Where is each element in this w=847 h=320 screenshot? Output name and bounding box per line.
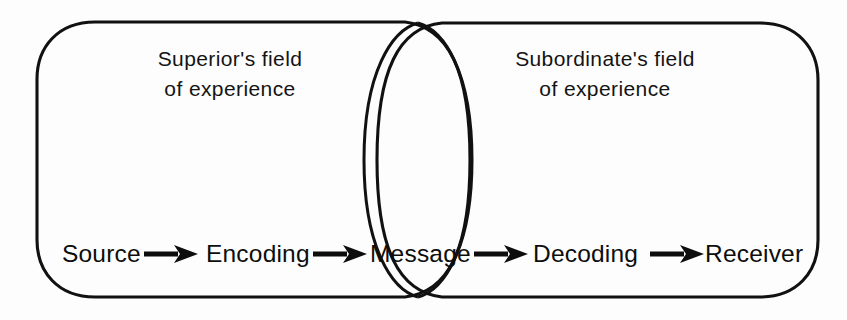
superior-field-label-line2: of experience	[164, 77, 295, 100]
stage-label-receiver: Receiver	[705, 240, 803, 267]
stage-label-source: Source	[62, 240, 141, 267]
stage-label-decoding: Decoding	[533, 240, 638, 267]
arrow-encoding-message	[313, 245, 367, 263]
communication-process-diagram: Superior's field of experience Subordina…	[0, 0, 847, 320]
arrow-source-encoding	[144, 245, 198, 263]
stage-label-message: Message	[370, 240, 471, 267]
superior-field-label-line1: Superior's field	[158, 47, 303, 70]
arrow-decoding-receiver	[650, 245, 704, 263]
arrow-message-decoding	[474, 245, 528, 263]
subordinate-field-label-line1: Subordinate's field	[515, 47, 695, 70]
diagram-canvas: Superior's field of experience Subordina…	[0, 0, 847, 320]
stage-label-encoding: Encoding	[206, 240, 310, 267]
subordinate-field-label-line2: of experience	[539, 77, 670, 100]
